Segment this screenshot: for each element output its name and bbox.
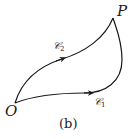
curve-c1-subscript: 1	[101, 101, 105, 109]
curve-c2-label: 𝒞2	[53, 41, 64, 53]
curve-c1-symbol: 𝒞	[94, 96, 101, 107]
point-o-label: O	[5, 104, 17, 119]
curve-c2-subscript: 2	[60, 45, 64, 53]
point-p-label: P	[117, 4, 127, 19]
curve-c2	[15, 18, 113, 103]
curve-c2-symbol: 𝒞	[53, 40, 60, 51]
figure-caption: (b)	[59, 117, 77, 130]
curve-c2-arrow-icon	[56, 58, 64, 61]
curve-c1-label: 𝒞1	[94, 97, 105, 109]
